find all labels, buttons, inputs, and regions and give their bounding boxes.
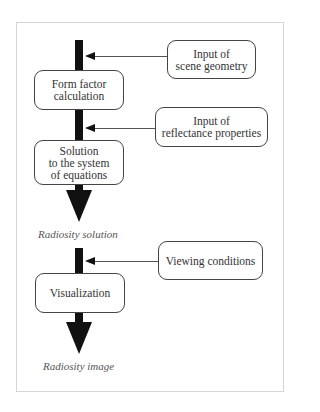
- flow-bar-1: [75, 40, 83, 70]
- input-box-scene-geometry: Input of scene geometry: [167, 40, 256, 79]
- output-label-radiosity-solution: Radiosity solution: [38, 228, 118, 240]
- input-box-viewing-conditions: Viewing conditions: [158, 241, 263, 280]
- output-label-radiosity-image: Radiosity image: [43, 360, 114, 372]
- output-arrowhead-2: [66, 322, 92, 354]
- step-box-visualization: Visualization: [35, 273, 125, 313]
- output-arrowhead-1: [66, 190, 92, 222]
- input-arrowhead-1: [85, 52, 95, 60]
- input-arrow-line-2: [88, 128, 155, 129]
- flow-bar-2: [75, 110, 83, 140]
- flow-bar-3: [75, 248, 83, 273]
- input-box-reflectance: Input of reflectance properties: [155, 107, 268, 147]
- input-arrow-line-1: [88, 56, 167, 57]
- input-arrowhead-3: [85, 257, 95, 265]
- input-arrow-line-3: [88, 261, 158, 262]
- step-box-solution: Solution to the system of equations: [34, 140, 124, 185]
- input-arrowhead-2: [85, 124, 95, 132]
- step-box-form-factor: Form factor calculation: [34, 70, 124, 110]
